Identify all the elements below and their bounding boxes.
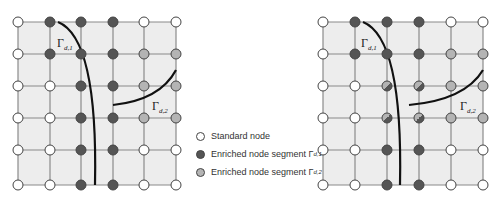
standard-node xyxy=(350,113,360,123)
standard-node xyxy=(45,145,55,155)
standard-node xyxy=(171,17,181,27)
panel-left: Γd,1Γd,2 xyxy=(13,17,181,190)
enriched-d2-node xyxy=(478,113,488,123)
enriched-d2-node xyxy=(446,113,456,123)
enriched-d1-node xyxy=(350,17,360,27)
enriched-d1-node xyxy=(382,49,392,59)
enriched-d1-node xyxy=(108,49,118,59)
enriched-d2-node xyxy=(139,81,149,91)
enriched-d1-node-icon xyxy=(196,150,205,159)
enriched-d1-node xyxy=(76,145,86,155)
enriched-d2-node xyxy=(446,49,456,59)
legend-item-enriched-d1: Enriched node segment Γd,1 xyxy=(196,145,322,163)
enriched-d1-node xyxy=(76,49,86,59)
standard-node xyxy=(350,145,360,155)
enriched-d1-node xyxy=(382,180,392,190)
standard-node xyxy=(478,145,488,155)
standard-node xyxy=(13,49,23,59)
enriched-d1-node xyxy=(45,49,55,59)
enriched-d2-node xyxy=(139,49,149,59)
legend-label: Standard node xyxy=(211,131,270,141)
legend-subscript: d,1 xyxy=(314,151,322,157)
standard-node xyxy=(318,17,328,27)
standard-node xyxy=(446,17,456,27)
standard-node xyxy=(13,17,23,27)
standard-node xyxy=(478,17,488,27)
standard-node xyxy=(318,49,328,59)
enriched-d1-node xyxy=(108,145,118,155)
standard-node xyxy=(13,113,23,123)
enriched-d2-node xyxy=(446,81,456,91)
standard-node xyxy=(139,17,149,27)
standard-node xyxy=(171,180,181,190)
enriched-d1-node xyxy=(76,81,86,91)
mixed-enriched-node xyxy=(382,113,392,123)
enriched-d1-node xyxy=(76,17,86,27)
standard-node xyxy=(171,145,181,155)
standard-node xyxy=(13,145,23,155)
enriched-d2-node xyxy=(171,49,181,59)
standard-node xyxy=(350,81,360,91)
mixed-enriched-node xyxy=(414,113,424,123)
enriched-d1-node xyxy=(382,17,392,27)
enriched-d1-node xyxy=(414,145,424,155)
legend-item-standard: Standard node xyxy=(196,127,322,145)
legend-label: Enriched node segment Γ xyxy=(211,149,314,159)
enriched-d1-node xyxy=(382,145,392,155)
legend: Standard node Enriched node segment Γd,1… xyxy=(196,127,322,181)
legend-label: Enriched node segment Γ xyxy=(211,167,314,177)
mixed-enriched-node xyxy=(382,81,392,91)
standard-node xyxy=(139,145,149,155)
standard-node xyxy=(478,180,488,190)
standard-node-icon xyxy=(196,132,205,141)
standard-node xyxy=(318,180,328,190)
enriched-d2-node xyxy=(171,113,181,123)
enriched-d1-node xyxy=(108,113,118,123)
legend-subscript: d,2 xyxy=(314,169,322,175)
enriched-d1-node xyxy=(45,17,55,27)
enriched-d1-node xyxy=(108,17,118,27)
standard-node xyxy=(45,81,55,91)
enriched-d2-node xyxy=(139,113,149,123)
panel-right: Γd,1Γd,2 xyxy=(318,17,488,190)
enriched-d1-node xyxy=(108,81,118,91)
mixed-enriched-node xyxy=(414,81,424,91)
standard-node xyxy=(446,180,456,190)
enriched-d2-node xyxy=(478,49,488,59)
enriched-d2-node-icon xyxy=(196,168,205,177)
enriched-d1-node xyxy=(76,180,86,190)
enriched-d2-node xyxy=(171,81,181,91)
enriched-d2-node xyxy=(478,81,488,91)
enriched-d1-node xyxy=(76,113,86,123)
enriched-d1-node xyxy=(414,17,424,27)
standard-node xyxy=(318,113,328,123)
standard-node xyxy=(446,145,456,155)
mesh-background xyxy=(323,22,483,185)
enriched-d1-node xyxy=(414,49,424,59)
enriched-d1-node xyxy=(108,180,118,190)
standard-node xyxy=(13,180,23,190)
standard-node xyxy=(45,113,55,123)
standard-node xyxy=(139,180,149,190)
standard-node xyxy=(45,180,55,190)
standard-node xyxy=(350,180,360,190)
legend-item-enriched-d2: Enriched node segment Γd,2 xyxy=(196,163,322,181)
enriched-d1-node xyxy=(350,49,360,59)
standard-node xyxy=(318,81,328,91)
enriched-d1-node xyxy=(414,180,424,190)
standard-node xyxy=(13,81,23,91)
